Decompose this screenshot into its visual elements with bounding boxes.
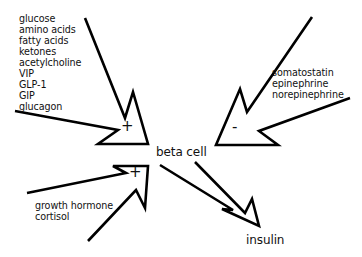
insulin-label: insulin xyxy=(246,233,284,247)
stimulator-item: GIP xyxy=(19,90,81,101)
stimulators-bottom-list: growth hormone cortisol xyxy=(35,200,113,222)
inhibitor-item: epinephrine xyxy=(272,78,344,89)
inhibitor-item: somatostatin xyxy=(272,67,344,78)
beta-cell-regulation-diagram: glucose amino acids fatty acids ketones … xyxy=(0,0,362,257)
stimulator-item: glucagon xyxy=(19,101,81,112)
stimulator-item: cortisol xyxy=(35,211,113,222)
stimulator-item: ketones xyxy=(19,46,81,57)
stimulator-item: GLP-1 xyxy=(19,79,81,90)
stimulators-top-list: glucose amino acids fatty acids ketones … xyxy=(19,13,81,112)
inhibitor-item: norepinephrine xyxy=(272,89,344,100)
beta-cell-label: beta cell xyxy=(156,145,207,159)
stimulator-item: VIP xyxy=(19,68,81,79)
stimulator-item: growth hormone xyxy=(35,200,113,211)
stimulator-item: acetylcholine xyxy=(19,57,81,68)
minus-sign: - xyxy=(232,120,237,135)
stimulator-item: glucose xyxy=(19,13,81,24)
plus-sign-top: + xyxy=(121,119,134,134)
stimulator-item: fatty acids xyxy=(19,35,81,46)
inhibitors-list: somatostatin epinephrine norepinephrine xyxy=(272,67,344,100)
stimulator-item: amino acids xyxy=(19,24,81,35)
secretion-arrow-to-insulin xyxy=(160,162,259,226)
plus-sign-bottom: + xyxy=(129,165,142,180)
